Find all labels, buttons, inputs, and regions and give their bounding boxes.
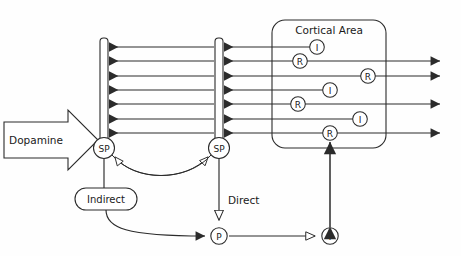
thalamus-node-label: T (326, 232, 333, 242)
diagram-canvas: Cortical Area I (0, 0, 461, 256)
cortical-node-3[interactable]: R (361, 69, 376, 84)
cortical-node-label: R (365, 72, 371, 82)
striatal-node-right[interactable]: SP (209, 138, 230, 159)
striatal-node-left[interactable]: SP (94, 138, 115, 159)
cortical-node-7[interactable]: R (323, 126, 338, 141)
striatal-node-label: SP (213, 144, 225, 154)
striatal-node-label: SP (98, 144, 110, 154)
thalamus-node[interactable]: T (322, 228, 338, 244)
cortical-node-4[interactable]: I (323, 83, 338, 98)
cortical-node-label: R (327, 129, 333, 139)
cortical-node-6[interactable]: I (353, 112, 368, 127)
cortical-node-label: I (329, 86, 332, 96)
pathway-diagram: Cortical Area I (0, 0, 461, 256)
left-striatal-bar (100, 38, 108, 142)
cortical-node-label: R (297, 57, 303, 67)
cortical-node-2[interactable]: R (293, 54, 308, 69)
direct-label: Direct (228, 194, 259, 206)
cortical-node-label: I (359, 115, 362, 125)
indirect-to-pallidum-curve (106, 210, 205, 236)
cortical-node-1[interactable]: I (310, 40, 325, 55)
cortical-area-label: Cortical Area (295, 24, 363, 36)
dopamine-label: Dopamine (9, 134, 63, 146)
right-striatal-bar (215, 38, 223, 142)
cortical-node-label: R (295, 100, 301, 110)
pallidum-node-label: P (216, 232, 222, 242)
sp-right-to-left-curve (115, 155, 211, 176)
pallidum-node[interactable]: P (211, 228, 227, 244)
indirect-label: Indirect (87, 194, 125, 205)
cortical-node-5[interactable]: R (291, 97, 306, 112)
cortical-node-label: I (316, 43, 319, 53)
sp-left-to-right-curve (112, 155, 208, 176)
